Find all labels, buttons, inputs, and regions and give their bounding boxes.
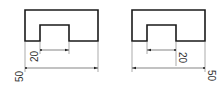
part-outline-right: [132, 10, 205, 41]
dimension-label-20: 20: [177, 52, 188, 64]
arrowhead-icon: [65, 49, 69, 51]
dimension-label-50: 50: [14, 70, 25, 82]
figure-left: 20 50: [14, 10, 98, 82]
dimension-terminator-icon: [203, 67, 205, 69]
dimension-terminator-icon: [25, 67, 27, 69]
dimension-terminator-icon: [174, 49, 176, 51]
figure-right: 20 50: [132, 10, 217, 82]
dimension-label-20: 20: [29, 50, 40, 62]
arrowhead-icon: [94, 67, 98, 69]
arrowhead-icon: [132, 67, 136, 69]
dimension-label-50: 50: [206, 70, 217, 82]
arrowhead-icon: [147, 49, 151, 51]
dimension-drawings: 20 50 20 50: [0, 0, 220, 91]
part-outline-left: [25, 10, 98, 41]
dimension-terminator-icon: [40, 49, 42, 51]
